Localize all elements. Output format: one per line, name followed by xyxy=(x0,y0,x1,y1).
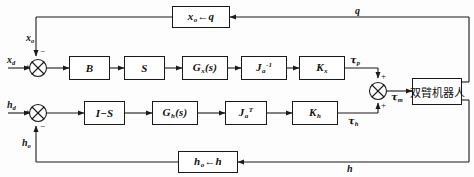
label-hd: hd xyxy=(7,100,16,112)
label-tau-p: τp xyxy=(350,55,360,67)
block-ja-transpose-label: JaT xyxy=(239,106,253,120)
sign-sum1-minus: − xyxy=(40,47,45,56)
block-gx-label: Gx(s) xyxy=(193,61,217,75)
block-s-label: S xyxy=(141,62,147,74)
block-i-minus-s: I−S xyxy=(84,101,125,125)
block-gx: Gx(s) xyxy=(182,56,228,80)
sign-sum2-plus: + xyxy=(25,107,30,116)
block-b: B xyxy=(69,56,110,80)
sign-sum2-minus: − xyxy=(40,122,45,131)
block-kh-label: Kh xyxy=(309,106,321,120)
label-tau-h: τh xyxy=(348,116,358,128)
sign-sum3-plus-top: + xyxy=(381,72,386,81)
block-ja-inverse: Ja-1 xyxy=(241,56,287,80)
label-h: h xyxy=(347,164,353,174)
block-diagram-canvas: xo←q B S Gx(s) Ja-1 Kx I−S Gh(s) JaT Kh … xyxy=(0,0,474,177)
block-s: S xyxy=(124,56,165,80)
label-ho: ho xyxy=(22,138,31,150)
block-ho-from-h: ho←h xyxy=(178,151,238,173)
sign-sum1-plus: + xyxy=(25,62,30,71)
block-xo-from-q: xo←q xyxy=(172,6,230,28)
block-dual-arm-robot: 双臂机器人 xyxy=(412,78,462,105)
block-xo-from-q-label: xo←q xyxy=(188,10,215,24)
block-dual-arm-robot-label: 双臂机器人 xyxy=(410,84,465,100)
block-b-label: B xyxy=(86,62,94,74)
block-gh-label: Gh(s) xyxy=(163,106,188,120)
label-xd: xd xyxy=(7,55,15,67)
label-q: q xyxy=(355,6,360,16)
block-i-minus-s-label: I−S xyxy=(96,107,114,119)
label-xo: xo xyxy=(26,33,34,45)
block-ja-inverse-label: Ja-1 xyxy=(256,61,272,75)
block-kh: Kh xyxy=(292,101,338,125)
block-ho-from-h-label: ho←h xyxy=(194,155,222,169)
block-kx-label: Kx xyxy=(316,61,328,75)
sign-sum3-plus-bottom: + xyxy=(381,101,386,110)
block-gh: Gh(s) xyxy=(152,101,198,125)
block-kx: Kx xyxy=(299,56,345,80)
label-tau-m: τm xyxy=(391,92,403,104)
block-ja-transpose: JaT xyxy=(225,101,267,125)
